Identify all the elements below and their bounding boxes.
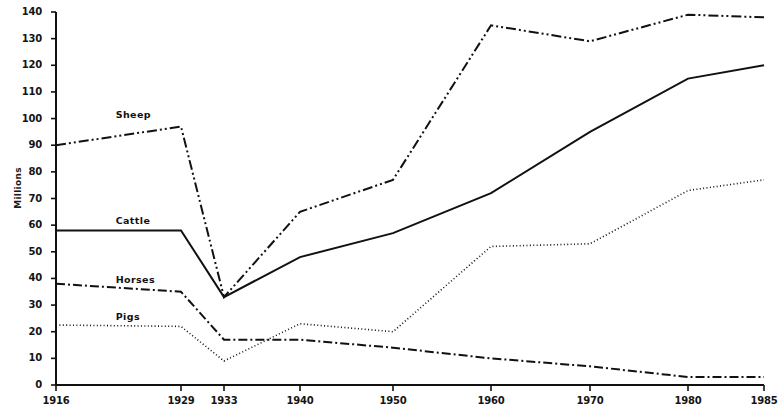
chart-axes: [56, 12, 764, 385]
y-tick-label: 140: [8, 6, 42, 17]
axis-tick-marks: [51, 12, 764, 391]
data-series-lines: [56, 15, 764, 377]
y-tick-label: 110: [8, 86, 42, 97]
series-label-horses: Horses: [114, 274, 157, 285]
y-tick-label: 20: [8, 326, 42, 337]
series-line-cattle: [56, 65, 764, 297]
y-axis-title: Millions: [13, 148, 23, 228]
x-tick-label: 1970: [560, 395, 620, 406]
y-tick-label: 40: [8, 272, 42, 283]
y-tick-label: 10: [8, 352, 42, 363]
y-tick-label: 70: [8, 193, 42, 204]
series-label-sheep: Sheep: [114, 109, 153, 120]
y-tick-label: 60: [8, 219, 42, 230]
x-tick-label: 1940: [270, 395, 330, 406]
x-tick-label: 1916: [26, 395, 86, 406]
y-tick-label: 130: [8, 33, 42, 44]
series-line-horses: [56, 284, 764, 377]
x-tick-label: 1985: [734, 395, 782, 406]
y-tick-label: 120: [8, 59, 42, 70]
series-label-cattle: Cattle: [114, 215, 153, 226]
series-line-sheep: [56, 15, 764, 297]
x-tick-label: 1980: [658, 395, 718, 406]
y-tick-label: 80: [8, 166, 42, 177]
series-label-pigs: Pigs: [114, 311, 142, 322]
y-tick-label: 90: [8, 139, 42, 150]
y-tick-label: 100: [8, 113, 42, 124]
y-tick-label: 30: [8, 299, 42, 310]
series-line-pigs: [56, 180, 764, 361]
x-tick-label: 1950: [363, 395, 423, 406]
x-tick-label: 1933: [194, 395, 254, 406]
x-tick-label: 1960: [461, 395, 521, 406]
y-tick-label: 0: [8, 379, 42, 390]
y-tick-label: 50: [8, 246, 42, 257]
